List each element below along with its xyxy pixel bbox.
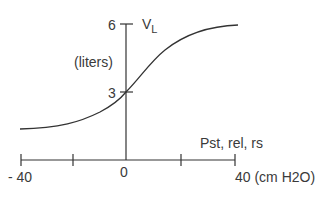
y-tick-label-3: 3 bbox=[108, 86, 116, 100]
x-tick-label-zero: 0 bbox=[120, 165, 128, 179]
y-units-label: (liters) bbox=[74, 55, 113, 69]
y-axis-label: VL bbox=[142, 17, 157, 31]
y-tick-label-6: 6 bbox=[108, 18, 116, 32]
x-tick-label-max: 40 (cm H2O) bbox=[235, 170, 315, 184]
x-tick-label-min: - 40 bbox=[8, 170, 32, 184]
x-axis-title: Pst, rel, rs bbox=[200, 136, 263, 150]
pressure-volume-curve bbox=[20, 25, 238, 129]
chart-canvas bbox=[0, 0, 321, 197]
